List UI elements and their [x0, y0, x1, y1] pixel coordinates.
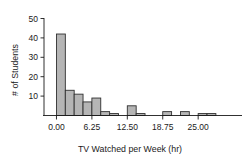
- y-tick-labels: 1020304050: [29, 14, 39, 102]
- histogram-bar: [65, 90, 74, 115]
- histogram-bar: [74, 94, 83, 115]
- y-tick-label: 40: [29, 33, 39, 43]
- histogram-bar: [83, 102, 92, 116]
- histogram-bar: [56, 34, 65, 115]
- histogram-bar: [127, 106, 136, 116]
- x-tick-label: 0.00: [48, 122, 65, 132]
- histogram-bar: [163, 112, 172, 116]
- y-tick-label: 20: [29, 72, 39, 82]
- histogram-bar: [180, 112, 189, 116]
- x-tick-label: 18.75: [152, 122, 174, 132]
- y-axis-title: # of Students: [10, 43, 20, 95]
- x-tick-label: 6.25: [84, 122, 101, 132]
- x-axis-title: TV Watched per Week (hr): [78, 144, 182, 154]
- chart-canvas: 0.006.2512.5018.7525.00 1020304050 TV Wa…: [0, 0, 249, 161]
- histogram-bar: [101, 112, 110, 116]
- histogram-bar: [92, 98, 101, 115]
- y-tick-label: 10: [29, 91, 39, 101]
- histogram-chart: 0.006.2512.5018.7525.00 1020304050 TV Wa…: [0, 0, 249, 161]
- x-tick-labels: 0.006.2512.5018.7525.00: [48, 122, 209, 132]
- bars-group: [56, 34, 215, 115]
- y-tick-label: 50: [29, 14, 39, 24]
- x-tick-label: 25.00: [188, 122, 210, 132]
- x-tick-label: 12.50: [117, 122, 139, 132]
- y-tick-label: 30: [29, 52, 39, 62]
